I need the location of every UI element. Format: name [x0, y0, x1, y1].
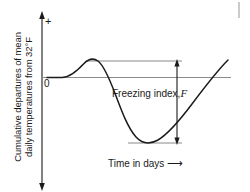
right-arrow-icon: ⟶ [167, 157, 182, 169]
y-axis-label-line-1: Cumulative departures of mean [12, 14, 23, 180]
freezing-index-arrow [174, 59, 179, 145]
cumulative-departure-curve [47, 59, 228, 143]
freezing-index-symbol: F [180, 87, 187, 99]
x-axis-label: Time in days ⟶ [108, 158, 182, 169]
arrow-head-up [174, 59, 179, 67]
x-axis-label-text: Time in days [108, 158, 164, 169]
y-axis-label: Cumulative departures of mean daily temp… [12, 14, 46, 180]
y-axis-label-line-2: daily temperatures from 32°F [23, 14, 34, 180]
y-axis-down-arrowhead [39, 183, 45, 191]
freezing-index-annotation: Freezing index,F [112, 88, 187, 99]
freezing-index-text: Freezing index, [112, 88, 180, 99]
y-axis-positive-marker: + [45, 16, 51, 27]
freezing-index-diagram: Cumulative departures of mean daily temp… [0, 0, 250, 192]
y-axis-zero-marker: 0 [44, 79, 50, 89]
arrow-head-down [174, 138, 179, 146]
